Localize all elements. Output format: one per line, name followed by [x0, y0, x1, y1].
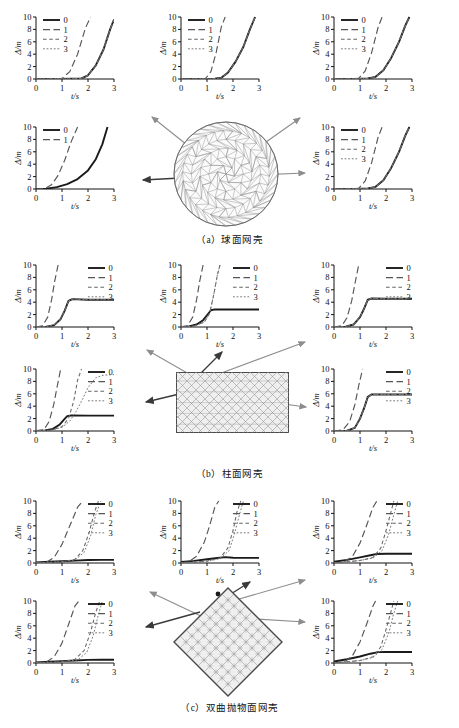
- svg-text:2: 2: [172, 310, 176, 320]
- svg-text:2: 2: [407, 618, 411, 628]
- panel-a-spherical-shell: 01230246810t/sΔ/m0123 01230246810t/sΔ/m0…: [0, 0, 459, 250]
- svg-text:0: 0: [109, 599, 113, 609]
- panel-b-caption: （b）柱面网壳: [0, 466, 459, 480]
- svg-text:10: 10: [23, 364, 32, 374]
- svg-text:1: 1: [358, 83, 362, 93]
- svg-text:1: 1: [109, 273, 113, 283]
- svg-text:0: 0: [27, 426, 31, 436]
- plot-a-bottom-left: 01230246810t/sΔ/m01: [12, 118, 127, 209]
- svg-text:1: 1: [64, 135, 68, 145]
- svg-text:2: 2: [407, 282, 411, 292]
- svg-text:0: 0: [332, 83, 336, 93]
- svg-text:Δ/m: Δ/m: [13, 151, 23, 166]
- svg-text:2: 2: [172, 546, 176, 556]
- svg-text:6: 6: [325, 147, 329, 157]
- svg-text:8: 8: [325, 134, 329, 144]
- svg-text:3: 3: [407, 628, 411, 638]
- svg-text:10: 10: [321, 122, 330, 132]
- svg-text:2: 2: [384, 667, 388, 677]
- svg-text:3: 3: [254, 292, 258, 302]
- cylindrical-shell-mesh: [176, 372, 290, 434]
- svg-text:t/s: t/s: [71, 201, 80, 211]
- svg-text:6: 6: [27, 621, 31, 631]
- svg-text:3: 3: [362, 154, 366, 164]
- svg-text:0: 0: [179, 567, 183, 577]
- plot-a-bottom-right: 01230246810t/sΔ/m0123: [310, 118, 425, 209]
- svg-text:10: 10: [168, 496, 177, 506]
- svg-text:3: 3: [112, 567, 116, 577]
- svg-text:Δ/m: Δ/m: [311, 625, 321, 640]
- svg-text:0: 0: [27, 558, 31, 568]
- reticulated-shell-displacement-figure: 01230246810t/sΔ/m0123 01230246810t/sΔ/m0…: [0, 0, 459, 728]
- svg-text:10: 10: [23, 12, 32, 22]
- svg-text:2: 2: [325, 546, 329, 556]
- svg-text:0: 0: [362, 15, 366, 25]
- svg-text:4: 4: [27, 159, 32, 169]
- svg-text:3: 3: [109, 528, 113, 538]
- svg-text:4: 4: [325, 297, 330, 307]
- svg-text:0: 0: [325, 322, 329, 332]
- svg-text:10: 10: [321, 260, 330, 270]
- svg-text:1: 1: [358, 193, 362, 203]
- svg-text:2: 2: [172, 62, 176, 72]
- svg-text:10: 10: [321, 496, 330, 506]
- svg-text:1: 1: [109, 377, 113, 387]
- panel-c-caption: （c）双曲抛物面网壳: [0, 700, 459, 714]
- svg-text:2: 2: [325, 310, 329, 320]
- svg-text:6: 6: [325, 37, 329, 47]
- plot-c-bottom-right: 01230246810t/sΔ/m0123: [310, 592, 425, 683]
- svg-text:3: 3: [362, 44, 366, 54]
- svg-text:0: 0: [34, 83, 38, 93]
- svg-text:3: 3: [109, 396, 113, 406]
- svg-text:10: 10: [23, 260, 32, 270]
- svg-text:2: 2: [86, 331, 90, 341]
- svg-text:t/s: t/s: [369, 443, 378, 453]
- svg-text:0: 0: [254, 263, 258, 273]
- svg-text:2: 2: [27, 172, 31, 182]
- svg-text:1: 1: [254, 509, 258, 519]
- svg-text:0: 0: [325, 184, 329, 194]
- plot-c-top-middle: 01230246810t/sΔ/m0123: [157, 492, 272, 583]
- svg-text:8: 8: [27, 24, 31, 34]
- svg-text:8: 8: [325, 608, 329, 618]
- hypar-shell-mesh: [172, 586, 284, 698]
- plot-b-top-right: 01230246810t/sΔ/m0123: [310, 256, 425, 347]
- svg-text:2: 2: [384, 435, 388, 445]
- svg-text:6: 6: [27, 147, 31, 157]
- svg-text:3: 3: [257, 567, 261, 577]
- svg-text:1: 1: [362, 135, 366, 145]
- svg-text:8: 8: [172, 272, 176, 282]
- plot-a-top-left: 01230246810t/sΔ/m0123: [12, 8, 127, 99]
- svg-text:4: 4: [27, 297, 32, 307]
- svg-text:3: 3: [64, 44, 68, 54]
- svg-text:2: 2: [325, 646, 329, 656]
- svg-text:0: 0: [172, 322, 176, 332]
- panel-c-hypar-shell: 01230246810t/sΔ/m0123 01230246810t/sΔ/m0…: [0, 482, 459, 728]
- plot-b-top-left: 01230246810t/sΔ/m0123: [12, 256, 127, 347]
- svg-text:0: 0: [34, 193, 38, 203]
- svg-text:0: 0: [332, 193, 336, 203]
- svg-text:4: 4: [172, 533, 177, 543]
- svg-text:3: 3: [254, 528, 258, 538]
- panel-a-caption: （a）球面网壳: [0, 232, 459, 246]
- svg-text:0: 0: [209, 15, 213, 25]
- svg-text:0: 0: [332, 331, 336, 341]
- svg-text:6: 6: [172, 37, 176, 47]
- svg-text:t/s: t/s: [71, 443, 80, 453]
- svg-text:3: 3: [112, 83, 116, 93]
- svg-text:1: 1: [60, 83, 64, 93]
- svg-text:2: 2: [27, 62, 31, 72]
- svg-text:0: 0: [362, 125, 366, 135]
- svg-text:3: 3: [410, 193, 414, 203]
- svg-text:0: 0: [109, 367, 113, 377]
- svg-text:2: 2: [325, 172, 329, 182]
- svg-text:2: 2: [362, 144, 366, 154]
- svg-text:1: 1: [362, 25, 366, 35]
- svg-text:6: 6: [27, 521, 31, 531]
- svg-text:4: 4: [172, 297, 177, 307]
- svg-text:0: 0: [34, 435, 38, 445]
- svg-text:3: 3: [407, 396, 411, 406]
- svg-text:10: 10: [321, 364, 330, 374]
- svg-text:8: 8: [325, 24, 329, 34]
- svg-text:1: 1: [407, 509, 411, 519]
